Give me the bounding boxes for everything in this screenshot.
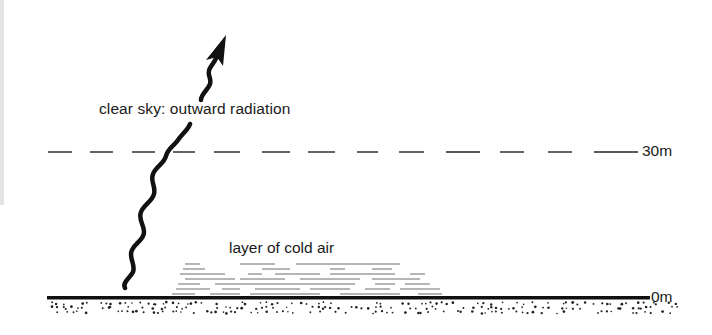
radiation-arrow <box>124 35 226 288</box>
height-0m-label: 0m <box>651 289 673 305</box>
radiation-cooling-diagram: clear sky: outward radiation layer of co… <box>0 0 712 335</box>
radiation-wave <box>124 56 217 288</box>
cold-air-label: layer of cold air <box>229 240 334 256</box>
height-30m-label: 30m <box>642 143 672 159</box>
ground-line <box>47 296 650 300</box>
radiation-label: clear sky: outward radiation <box>99 101 290 117</box>
diagram-canvas <box>0 0 712 335</box>
ground-stipple <box>51 301 678 315</box>
cold-air-hatching <box>172 264 442 294</box>
